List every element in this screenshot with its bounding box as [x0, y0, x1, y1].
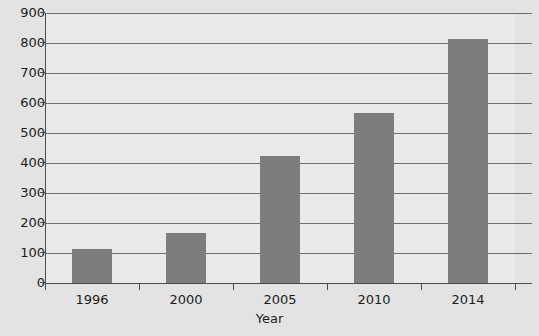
bar-2005	[260, 156, 300, 284]
bar-2014	[448, 39, 488, 284]
x-axis-tick-mark	[327, 283, 328, 290]
x-axis-tick-mark	[233, 283, 234, 290]
x-axis-tick-mark	[515, 283, 516, 290]
x-axis-tick-label-2000: 2000	[169, 292, 202, 307]
x-axis-tick-mark	[45, 283, 46, 290]
y-axis-tick-400: 400	[0, 156, 45, 169]
x-axis-tick-label-2005: 2005	[263, 292, 296, 307]
y-axis-tick-100: 100	[0, 246, 45, 259]
bars-group	[45, 13, 515, 283]
x-axis-tick-label-2010: 2010	[357, 292, 390, 307]
y-axis-tick-500: 500	[0, 126, 45, 139]
y-axis-tick-700: 700	[0, 66, 45, 79]
bar-chart: 0100200300400500600700800900 19962000200…	[0, 0, 539, 336]
y-axis-tick-200: 200	[0, 216, 45, 229]
y-axis-tick-900: 900	[0, 6, 45, 19]
y-axis-tick-600: 600	[0, 96, 45, 109]
x-axis-tick-mark	[139, 283, 140, 290]
bar-2000	[166, 233, 206, 283]
y-axis-tick-800: 800	[0, 36, 45, 49]
x-axis-tick-label-1996: 1996	[75, 292, 108, 307]
bar-2010	[354, 113, 394, 283]
x-axis-title: Year	[0, 311, 539, 326]
x-axis-tick-label-2014: 2014	[451, 292, 484, 307]
x-axis-line	[45, 283, 532, 284]
x-axis-tick-mark	[421, 283, 422, 290]
y-axis-tick-0: 0	[0, 276, 45, 289]
y-axis-tick-300: 300	[0, 186, 45, 199]
bar-1996	[72, 249, 112, 283]
